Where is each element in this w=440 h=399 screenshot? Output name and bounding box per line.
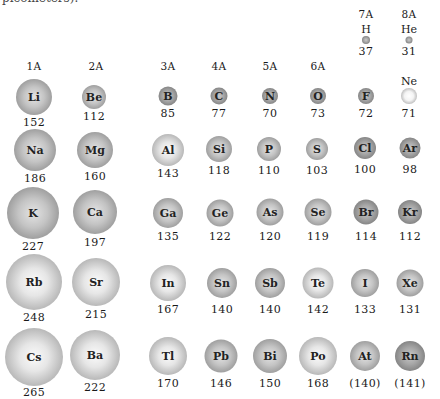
element-symbol-B: B bbox=[163, 90, 172, 103]
atom-Se: Se bbox=[305, 199, 332, 226]
radius-Al: 143 bbox=[157, 167, 179, 180]
element-symbol-O: O bbox=[313, 90, 323, 103]
radius-Cs: 265 bbox=[23, 386, 45, 399]
atom-I: I bbox=[351, 269, 379, 297]
element-symbol-Na: Na bbox=[26, 144, 43, 157]
radius-Ge: 122 bbox=[209, 230, 231, 243]
element-symbol-Bi: Bi bbox=[263, 350, 276, 363]
atom-Li: Li bbox=[16, 79, 52, 115]
atom-N: N bbox=[262, 88, 278, 104]
atom-In: In bbox=[150, 265, 186, 301]
radius-O: 73 bbox=[311, 107, 326, 120]
atom-Te: Te bbox=[303, 268, 334, 299]
radius-Pb: 146 bbox=[210, 377, 232, 390]
radius-Rn: (141) bbox=[394, 377, 426, 390]
element-symbol-Ga: Ga bbox=[160, 207, 177, 220]
radius-Na: 186 bbox=[24, 172, 46, 185]
element-symbol-Mg: Mg bbox=[85, 144, 105, 157]
radius-As: 120 bbox=[259, 230, 281, 243]
radius-N: 70 bbox=[263, 107, 278, 120]
element-symbol-Po: Po bbox=[310, 350, 325, 363]
element-symbol-Al: Al bbox=[162, 144, 175, 157]
element-symbol-Tl: Tl bbox=[162, 350, 174, 363]
element-symbol-F: F bbox=[362, 90, 370, 103]
element-symbol-Pb: Pb bbox=[213, 350, 229, 363]
radius-Ne: 71 bbox=[402, 107, 417, 120]
caption-fragment: picometers). bbox=[2, 0, 78, 5]
atom-Bi: Bi bbox=[253, 339, 287, 373]
group-label-2A: 2A bbox=[89, 60, 104, 72]
atom-As: As bbox=[257, 199, 284, 226]
element-symbol-Sb: Sb bbox=[262, 277, 278, 290]
radius-P: 110 bbox=[258, 164, 280, 177]
atom-Rn: Rn bbox=[395, 341, 425, 371]
atom-Rb: Rb bbox=[6, 254, 62, 310]
atom-Si: Si bbox=[206, 136, 232, 162]
radius-C: 77 bbox=[212, 107, 227, 120]
radius-Ca: 197 bbox=[84, 236, 106, 249]
group-label-3A: 3A bbox=[161, 60, 176, 72]
element-symbol-He: He bbox=[401, 23, 417, 36]
atom-Al: Al bbox=[152, 134, 184, 166]
radius-Cl: 100 bbox=[354, 163, 376, 176]
atom-Xe: Xe bbox=[397, 270, 424, 297]
radius-Ba: 222 bbox=[84, 381, 106, 394]
atom-Pb: Pb bbox=[205, 340, 238, 373]
atom-O: O bbox=[310, 88, 326, 104]
radius-K: 227 bbox=[22, 240, 44, 253]
element-symbol-As: As bbox=[263, 206, 278, 219]
radius-B: 85 bbox=[161, 107, 176, 120]
atom-Ca: Ca bbox=[73, 190, 117, 234]
element-symbol-Rb: Rb bbox=[26, 276, 43, 289]
element-symbol-Cl: Cl bbox=[359, 142, 372, 155]
group-label-4A: 4A bbox=[212, 60, 227, 72]
element-symbol-H: H bbox=[361, 23, 371, 36]
atom-Cl: Cl bbox=[354, 137, 376, 159]
element-symbol-Sr: Sr bbox=[89, 276, 103, 289]
element-symbol-I: I bbox=[362, 277, 367, 290]
radius-H: 37 bbox=[359, 45, 374, 58]
element-symbol-K: K bbox=[28, 207, 38, 220]
atom-H bbox=[362, 36, 370, 44]
radius-Sr: 215 bbox=[85, 308, 107, 321]
element-symbol-Kr: Kr bbox=[402, 206, 417, 219]
element-symbol-Sn: Sn bbox=[214, 277, 230, 290]
radius-Si: 118 bbox=[208, 164, 230, 177]
group-label-6A: 6A bbox=[311, 60, 326, 72]
element-symbol-Ba: Ba bbox=[87, 349, 103, 362]
radius-Rb: 248 bbox=[23, 311, 45, 324]
atom-P: P bbox=[257, 137, 281, 161]
radius-Be: 112 bbox=[83, 110, 105, 123]
element-symbol-Li: Li bbox=[28, 91, 40, 104]
element-symbol-Se: Se bbox=[311, 206, 326, 219]
atom-C: C bbox=[211, 88, 228, 105]
element-symbol-P: P bbox=[265, 143, 273, 156]
atom-Sn: Sn bbox=[207, 268, 237, 298]
element-symbol-At: At bbox=[358, 350, 371, 363]
element-symbol-Br: Br bbox=[358, 206, 373, 219]
atom-Ne bbox=[401, 88, 417, 104]
atom-Tl: Tl bbox=[149, 337, 187, 375]
atom-Br: Br bbox=[354, 200, 379, 225]
atom-Sr: Sr bbox=[72, 258, 120, 306]
group-label-1A: 1A bbox=[27, 60, 42, 72]
radius-Xe: 131 bbox=[399, 303, 421, 316]
radius-Mg: 160 bbox=[84, 170, 106, 183]
element-symbol-Xe: Xe bbox=[402, 277, 418, 290]
element-symbol-Ne: Ne bbox=[401, 75, 417, 88]
element-symbol-Cs: Cs bbox=[27, 351, 42, 364]
atom-Mg: Mg bbox=[77, 132, 113, 168]
group-label-8A: 8A bbox=[402, 8, 417, 20]
atom-Na: Na bbox=[14, 129, 56, 171]
radius-Ga: 135 bbox=[157, 230, 179, 243]
atom-Ba: Ba bbox=[70, 330, 120, 380]
radius-Br: 114 bbox=[355, 230, 377, 243]
radius-Te: 142 bbox=[307, 303, 329, 316]
element-symbol-Te: Te bbox=[311, 277, 325, 290]
element-symbol-S: S bbox=[313, 143, 321, 156]
radius-Bi: 150 bbox=[259, 377, 281, 390]
atom-Ga: Ga bbox=[153, 198, 183, 228]
group-label-7A: 7A bbox=[359, 8, 374, 20]
atom-K: K bbox=[7, 187, 59, 239]
radius-Se: 119 bbox=[307, 230, 329, 243]
